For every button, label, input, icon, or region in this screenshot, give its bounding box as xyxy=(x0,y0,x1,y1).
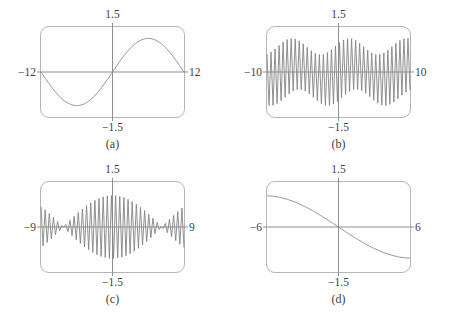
viewing-rectangle xyxy=(266,26,411,118)
x-max-label: 9 xyxy=(189,221,225,233)
plot-canvas xyxy=(41,27,184,117)
panel-d: 1.5 −6 6 −1.5 (d) xyxy=(226,155,452,321)
panel-caption: (d) xyxy=(266,293,411,305)
y-min-label: −1.5 xyxy=(40,276,185,288)
x-min-label: −9 xyxy=(0,221,36,233)
panel-caption: (c) xyxy=(40,293,185,305)
x-max-label: 6 xyxy=(415,221,451,233)
panel-caption: (a) xyxy=(40,138,185,150)
x-min-label: −12 xyxy=(0,66,36,78)
panel-c: 1.5 −9 9 −1.5 (c) xyxy=(0,155,226,321)
plot-canvas xyxy=(267,27,410,117)
y-max-label: 1.5 xyxy=(40,163,185,175)
panel-a: 1.5 −12 12 −1.5 (a) xyxy=(0,0,226,166)
plot-canvas xyxy=(41,182,184,272)
x-min-label: −6 xyxy=(226,221,262,233)
panel-b: 1.5 −10 10 −1.5 (b) xyxy=(226,0,452,166)
y-max-label: 1.5 xyxy=(266,163,411,175)
y-min-label: −1.5 xyxy=(266,276,411,288)
viewing-rectangle xyxy=(40,26,185,118)
y-max-label: 1.5 xyxy=(40,8,185,20)
viewing-rectangle xyxy=(266,181,411,273)
figure-four-viewing-rectangles: 1.5 −12 12 −1.5 (a) 1.5 −10 10 −1.5 (b) … xyxy=(0,0,452,321)
panel-caption: (b) xyxy=(266,138,411,150)
x-min-label: −10 xyxy=(226,66,262,78)
plot-canvas xyxy=(267,182,410,272)
viewing-rectangle xyxy=(40,181,185,273)
y-min-label: −1.5 xyxy=(40,121,185,133)
x-max-label: 10 xyxy=(415,66,451,78)
x-max-label: 12 xyxy=(189,66,225,78)
y-min-label: −1.5 xyxy=(266,121,411,133)
y-max-label: 1.5 xyxy=(266,8,411,20)
